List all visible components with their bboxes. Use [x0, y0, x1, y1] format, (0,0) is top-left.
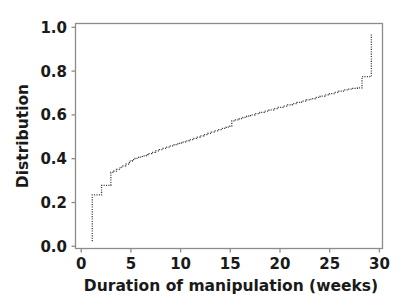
y-tick-label: 0.0	[40, 238, 67, 256]
cdf-chart: 1.0 0.8 0.6 0.4 0.2 0.0 0 5 10 15 20 25 …	[0, 0, 405, 305]
y-tick-label: 0.8	[40, 63, 67, 81]
y-tick-label: 0.4	[40, 150, 67, 168]
y-tick-label: 1.0	[40, 19, 67, 37]
y-tick-label: 0.6	[40, 106, 67, 124]
x-tick-label: 15	[220, 255, 241, 273]
x-tick-label: 20	[270, 255, 291, 273]
x-tick-label: 0	[76, 255, 86, 273]
x-axis-title: Duration of manipulation (weeks)	[84, 277, 378, 295]
x-tick-label: 25	[319, 255, 340, 273]
figure-canvas: 1.0 0.8 0.6 0.4 0.2 0.0 0 5 10 15 20 25 …	[0, 0, 405, 305]
x-tick-label: 5	[126, 255, 136, 273]
y-axis-title: Distribution	[14, 84, 32, 188]
y-tick-label: 0.2	[40, 194, 67, 212]
x-tick-label: 10	[170, 255, 191, 273]
x-tick-label: 30	[369, 255, 390, 273]
